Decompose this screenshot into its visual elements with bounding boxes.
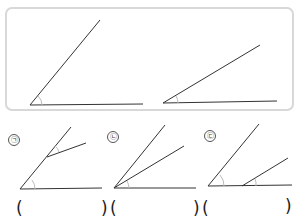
answer-a-open: (	[16, 200, 23, 217]
answer-c-open: (	[202, 200, 209, 217]
option-c-label: ㉢	[204, 130, 216, 142]
angle-figure	[0, 0, 300, 219]
answer-a-close: )	[101, 200, 108, 217]
option-b-figure	[114, 125, 196, 188]
option-a-figure	[20, 127, 102, 189]
answer-c-close: )	[285, 198, 292, 215]
option-b-label: ㉡	[107, 131, 119, 143]
option-a-label: ㉠	[8, 134, 20, 146]
reference-angle-large	[30, 20, 143, 105]
reference-angle-small	[163, 45, 277, 103]
reference-box	[6, 8, 293, 110]
answer-b-close: )	[193, 200, 200, 217]
option-c-figure	[208, 124, 292, 186]
answer-b-open: (	[110, 200, 117, 217]
